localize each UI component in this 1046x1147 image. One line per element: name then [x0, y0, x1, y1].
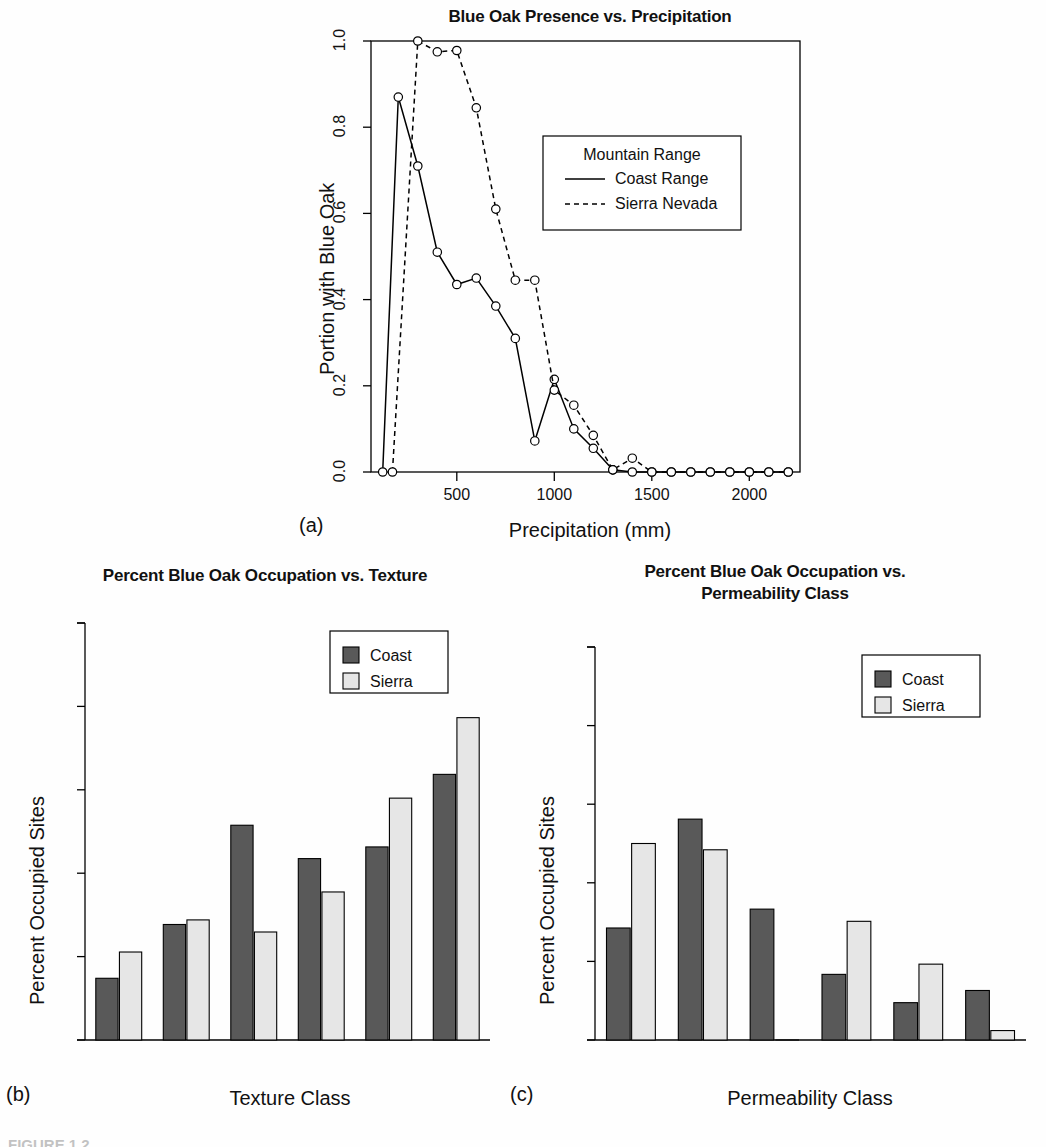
panel-c-bar-sierra [632, 844, 656, 1041]
panel-c-id: (c) [510, 1083, 533, 1106]
panel-a-datapoint [511, 334, 519, 342]
panel-a-datapoint [414, 37, 422, 45]
panel-a-datapoint [726, 468, 734, 476]
panel-b-legend-label: Sierra [370, 673, 413, 690]
panel-c-bar-sierra [847, 921, 871, 1040]
panel-a-datapoint [394, 93, 402, 101]
panel-c-bar-coast [606, 928, 630, 1040]
panel-b-xlabel: Texture Class [110, 1087, 470, 1110]
panel-a-legend-label: Coast Range [615, 170, 708, 187]
panel-a-id: (a) [299, 514, 323, 537]
panel-a-ytick-label: 0.2 [331, 368, 349, 402]
panel-a-datapoint [628, 454, 636, 462]
panel-a-datapoint [589, 431, 597, 439]
panel-a-precipitation: Blue Oak Presence vs. Precipitation Port… [0, 0, 1046, 555]
panel-a-datapoint [511, 276, 519, 284]
panel-a-datapoint [589, 444, 597, 452]
panel-a-plot: Mountain RangeCoast RangeSierra Nevada [0, 0, 1046, 555]
panel-b-bar-coast [298, 859, 320, 1040]
panel-b-legend-swatch [343, 673, 359, 689]
panel-a-datapoint [706, 468, 714, 476]
panel-b-bar-coast [163, 924, 185, 1040]
panel-b-bar-coast [366, 847, 388, 1040]
panel-c-legend-label: Sierra [902, 697, 945, 714]
panel-a-title: Blue Oak Presence vs. Precipitation [330, 6, 850, 28]
panel-a-xtick-label: 2000 [719, 486, 779, 504]
panel-a-datapoint [667, 468, 675, 476]
panel-a-ytick-label: 0.6 [331, 195, 349, 229]
panel-a-datapoint [648, 468, 656, 476]
panel-a-datapoint [531, 276, 539, 284]
panel-a-xlabel: Precipitation (mm) [400, 519, 780, 542]
panel-c-bar-sierra [919, 964, 943, 1040]
panel-a-datapoint [472, 274, 480, 282]
panel-a-legend-label: Sierra Nevada [615, 195, 717, 212]
panel-a-ytick-label: 0.8 [331, 109, 349, 143]
panel-a-datapoint [492, 302, 500, 310]
panel-b-bar-coast [96, 978, 118, 1040]
panel-a-datapoint [492, 205, 500, 213]
panel-a-datapoint [379, 468, 387, 476]
panel-a-datapoint [609, 466, 617, 474]
panel-c-bar-coast [894, 1003, 918, 1040]
panel-b-bar-sierra [187, 920, 209, 1040]
panel-a-ytick-label: 0.4 [331, 282, 349, 316]
panel-a-datapoint [745, 468, 753, 476]
panel-b-plot: CoastSierra [0, 555, 510, 1147]
panel-a-datapoint [414, 162, 422, 170]
panel-b-title: Percent Blue Oak Occupation vs. Texture [30, 565, 500, 587]
panel-b-bar-coast [231, 825, 253, 1040]
panel-a-datapoint [550, 386, 558, 394]
panel-a-datapoint [628, 468, 636, 476]
panel-b-bar-sierra [389, 798, 411, 1040]
panel-a-ytick-label: 0.0 [331, 454, 349, 488]
panel-a-datapoint [433, 48, 441, 56]
panel-c-permeability: Percent Blue Oak Occupation vs. Permeabi… [510, 555, 1046, 1147]
panel-b-bar-sierra [254, 932, 276, 1040]
panel-a-datapoint [453, 280, 461, 288]
panel-a-datapoint [570, 401, 578, 409]
panel-c-bar-coast [678, 819, 702, 1040]
panel-c-plot: CoastSierra [510, 555, 1046, 1147]
panel-a-datapoint [687, 468, 695, 476]
panel-c-xlabel: Permeability Class [630, 1087, 990, 1110]
panel-a-datapoint [765, 468, 773, 476]
panel-b-texture: Percent Blue Oak Occupation vs. Texture … [0, 555, 510, 1147]
panel-c-title-line1: Percent Blue Oak Occupation vs. [644, 562, 905, 581]
panel-b-bar-sierra [119, 952, 141, 1040]
panel-a-datapoint [472, 104, 480, 112]
panel-a-datapoint [531, 437, 539, 445]
panel-a-datapoint [388, 468, 396, 476]
panel-a-xtick-label: 1500 [622, 486, 682, 504]
panel-a-legend-title: Mountain Range [583, 146, 701, 163]
panel-c-title: Percent Blue Oak Occupation vs. Permeabi… [540, 561, 1010, 605]
panel-c-legend-swatch [875, 671, 891, 687]
panel-a-datapoint [453, 46, 461, 54]
panel-c-legend-label: Coast [902, 671, 944, 688]
figure-caption: FIGURE 1.2 [8, 1136, 90, 1147]
panel-b-bar-coast [433, 774, 455, 1040]
panel-c-ylabel: Percent Occupied Sites [536, 796, 559, 1005]
panel-c-bar-coast [750, 909, 774, 1040]
panel-a-ytick-label: 1.0 [331, 23, 349, 57]
panel-b-legend-label: Coast [370, 647, 412, 664]
panel-b-id: (b) [6, 1083, 30, 1106]
panel-a-datapoint [784, 468, 792, 476]
panel-a-datapoint [433, 248, 441, 256]
panel-c-legend-swatch [875, 697, 891, 713]
panel-a-xtick-label: 1000 [524, 486, 584, 504]
panel-b-ylabel: Percent Occupied Sites [26, 796, 49, 1005]
panel-a-datapoint [570, 425, 578, 433]
panel-b-bar-sierra [457, 718, 479, 1040]
panel-c-bar-sierra [703, 850, 727, 1040]
panel-c-bar-coast [822, 974, 846, 1040]
panel-a-xtick-label: 500 [427, 486, 487, 504]
panel-c-bar-coast [966, 990, 990, 1040]
panel-c-bar-sierra [991, 1031, 1015, 1040]
panel-c-title-line2: Permeability Class [701, 584, 849, 603]
panel-a-series-sierra [392, 41, 788, 472]
panel-b-bar-sierra [322, 892, 344, 1040]
panel-b-legend-swatch [343, 647, 359, 663]
